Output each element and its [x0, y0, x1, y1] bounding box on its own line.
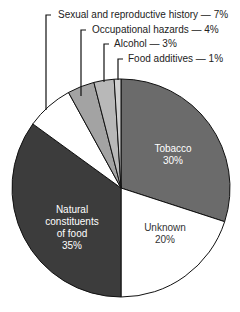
label-natural-line3: of food	[40, 228, 104, 240]
label-unknown-pct: 20%	[140, 234, 190, 246]
leader-food-additives	[118, 59, 123, 80]
label-natural-pct: 35%	[40, 240, 104, 252]
label-alcohol: Alcohol — 3%	[114, 38, 177, 50]
label-natural-constituents: Natural constituents of food 35%	[40, 204, 104, 252]
label-tobacco-name: Tobacco	[148, 143, 198, 155]
label-sexual-reproductive: Sexual and reproductive history — 7%	[58, 9, 228, 21]
pie-slices	[12, 79, 230, 297]
label-occupational-hazards: Occupational hazards — 4%	[92, 24, 219, 36]
label-food-additives: Food additives — 1%	[128, 53, 223, 65]
label-unknown-name: Unknown	[140, 222, 190, 234]
label-tobacco: Tobacco 30%	[148, 143, 198, 167]
label-natural-line1: Natural	[40, 204, 104, 216]
label-unknown: Unknown 20%	[140, 222, 190, 246]
leader-sexual	[46, 15, 51, 110]
label-tobacco-pct: 30%	[148, 155, 198, 167]
leader-alcohol	[104, 44, 109, 82]
label-natural-line2: constituents	[40, 216, 104, 228]
